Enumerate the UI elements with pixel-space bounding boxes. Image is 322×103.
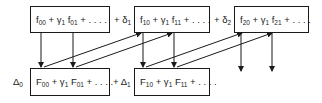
node-f0: f00 + γ1 f01 + . . . . — [30, 6, 110, 33]
node-f2: f20 + γ1 f21 + . . . . — [234, 6, 309, 33]
arrow-F11-to-f21 — [177, 33, 272, 67]
connector-Delta1: + Δ1 — [113, 76, 131, 88]
node-F1: F10 + γ1 F11 + . . . . — [134, 68, 210, 96]
term: f00 + γ1 f01 + . . . . — [36, 14, 107, 26]
term: f20 + γ1 f21 + . . . . — [240, 14, 311, 26]
node-F0: F00 + γ1 F01 + . . . . — [30, 68, 110, 96]
prefix-Delta0: Δ0 — [13, 76, 23, 88]
connector-delta1: + δ1 — [114, 14, 131, 26]
term: f10 + γ1 f11 + . . . . — [140, 14, 210, 26]
arrow-F10-to-f20 — [146, 33, 242, 67]
term: F00 + γ1 F01 + . . . . — [36, 76, 113, 88]
arrow-F00-to-f10 — [44, 33, 141, 67]
term: F10 + γ1 F11 + . . . . — [140, 76, 217, 88]
arrow-F01-to-f11 — [76, 33, 172, 67]
node-f1: f10 + γ1 f11 + . . . . — [134, 6, 210, 33]
connector-delta2: + δ2 — [214, 14, 231, 26]
